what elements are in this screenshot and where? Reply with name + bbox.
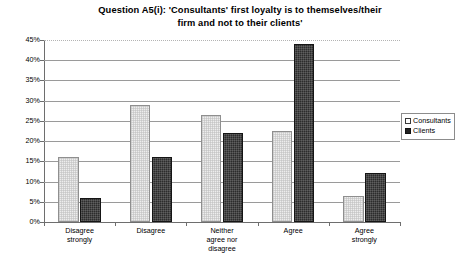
x-axis-category-label-line: Agree — [258, 226, 329, 235]
bar-group — [115, 40, 186, 222]
x-axis-category-label-line: strongly — [44, 235, 115, 244]
bar-chart: Question A5(i): 'Consultants' first loya… — [0, 0, 472, 270]
chart-title: Question A5(i): 'Consultants' first loya… — [55, 4, 425, 29]
x-axis-tick-mark — [115, 222, 116, 226]
x-axis-line — [44, 222, 401, 223]
x-axis-category-label: Disagree — [115, 226, 186, 235]
legend-label-clients: Clients — [413, 127, 435, 135]
y-axis-tick-mark — [40, 141, 44, 142]
y-axis-tick-label: 30% — [6, 97, 40, 104]
bar-group — [329, 40, 400, 222]
bar-clients — [365, 173, 386, 222]
x-axis-tick-mark — [400, 222, 401, 226]
legend-item-clients: Clients — [405, 126, 451, 136]
bar-group — [258, 40, 329, 222]
legend-label-consultants: Consultants — [413, 117, 451, 125]
x-axis-category-label: Agreestrongly — [329, 226, 400, 244]
y-axis-tick-label: 0% — [6, 218, 40, 225]
chart-title-line-2: firm and not to their clients' — [55, 17, 425, 30]
x-axis-category-label-line: agree nor — [186, 235, 257, 244]
y-axis-tick-label: 20% — [6, 138, 40, 145]
y-axis-tick-label: 40% — [6, 57, 40, 64]
x-axis-category-label: Agree — [258, 226, 329, 235]
x-axis-category-label: Neitheragree nordisagree — [186, 226, 257, 254]
y-axis-tick-mark — [40, 60, 44, 61]
y-axis-tick-mark — [40, 202, 44, 203]
bar-group — [44, 40, 115, 222]
bar-clients — [152, 157, 173, 222]
y-axis-tick-mark — [40, 40, 44, 41]
x-axis-tick-mark — [44, 222, 45, 226]
x-axis-tick-mark — [329, 222, 330, 226]
x-axis-tick-mark — [258, 222, 259, 226]
y-axis-tick-label: 45% — [6, 36, 40, 43]
bar-consultants — [130, 105, 151, 222]
y-axis-tick-mark — [40, 80, 44, 81]
bar-clients — [294, 44, 315, 222]
bar-consultants — [272, 131, 293, 222]
bar-clients — [223, 133, 244, 222]
chart-legend: Consultants Clients — [401, 113, 455, 140]
y-axis-tick-mark — [40, 101, 44, 102]
legend-item-consultants: Consultants — [405, 116, 451, 126]
bar-clients — [80, 198, 101, 222]
bar-group — [186, 40, 257, 222]
y-axis-tick-mark — [40, 182, 44, 183]
legend-swatch-consultants-icon — [405, 118, 411, 124]
legend-swatch-clients-icon — [405, 128, 411, 134]
x-axis-tick-mark — [186, 222, 187, 226]
bars-layer — [44, 40, 400, 222]
y-axis-tick-label: 35% — [6, 77, 40, 84]
y-axis-tick-label: 10% — [6, 178, 40, 185]
x-axis-category-label-line: strongly — [329, 235, 400, 244]
y-axis-tick-label: 25% — [6, 117, 40, 124]
y-axis-tick-mark — [40, 161, 44, 162]
x-axis-category-label-line: disagree — [186, 244, 257, 253]
y-axis-tick-labels: 0%5%10%15%20%25%30%35%40%45% — [0, 0, 40, 270]
x-axis-category-label-line: Neither — [186, 226, 257, 235]
y-axis-tick-mark — [40, 121, 44, 122]
x-axis-category-label-line: Disagree — [44, 226, 115, 235]
y-axis-tick-label: 5% — [6, 198, 40, 205]
x-axis-category-label-line: Disagree — [115, 226, 186, 235]
bar-consultants — [58, 157, 79, 222]
x-axis-category-label: Disagreestrongly — [44, 226, 115, 244]
bar-consultants — [201, 115, 222, 222]
y-axis-tick-label: 15% — [6, 158, 40, 165]
x-axis-category-label-line: Agree — [329, 226, 400, 235]
chart-title-line-1: Question A5(i): 'Consultants' first loya… — [55, 4, 425, 17]
bar-consultants — [343, 196, 364, 222]
